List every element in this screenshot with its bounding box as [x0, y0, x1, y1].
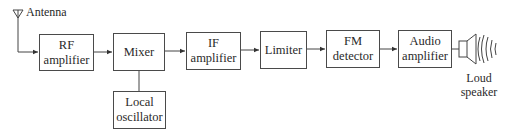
speaker-label-line1: Loud: [452, 71, 506, 85]
block-label-line1: Local: [125, 95, 153, 110]
antenna-label: Antenna: [26, 5, 67, 19]
antenna-icon: [13, 10, 23, 18]
local-oscillator-block: Local oscillator: [113, 91, 166, 129]
block-label-line1: FM: [344, 34, 362, 49]
speaker-label-line2: speaker: [452, 85, 506, 99]
block-label-line2: detector: [333, 49, 373, 64]
fm-detector-block: FM detector: [326, 30, 380, 68]
rf-amplifier-block: RF amplifier: [39, 34, 94, 71]
mixer-block: Mixer: [113, 33, 165, 71]
if-amplifier-block: IF amplifier: [186, 32, 241, 70]
block-label-line1: Limiter: [265, 43, 303, 58]
block-label-line2: oscillator: [116, 110, 163, 125]
block-label-line1: Audio: [409, 34, 440, 49]
block-label-line2: amplifier: [402, 49, 448, 64]
block-label-line2: amplifier: [191, 51, 237, 66]
loudspeaker-label: Loud speaker: [452, 71, 506, 99]
block-label-line1: IF: [208, 36, 219, 51]
block-label-line1: Mixer: [124, 45, 155, 60]
loudspeaker-icon: [459, 34, 496, 64]
limiter-block: Limiter: [260, 31, 307, 69]
block-label-line1: RF: [59, 38, 74, 53]
block-label-line2: amplifier: [44, 53, 90, 68]
audio-amplifier-block: Audio amplifier: [398, 30, 452, 68]
